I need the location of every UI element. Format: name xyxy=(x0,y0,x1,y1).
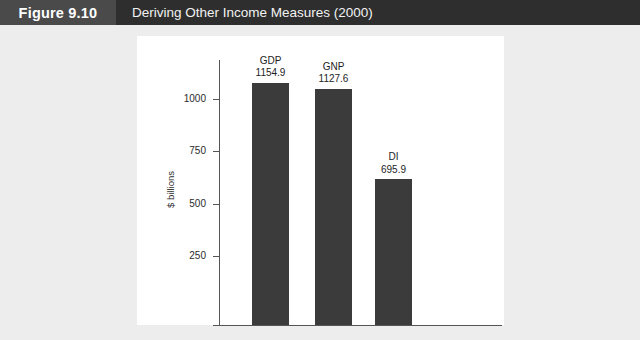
bar-label-di-value: 695.9 xyxy=(354,164,434,177)
y-tick-label-500: 500 xyxy=(146,199,206,209)
y-tick-label-250: 250 xyxy=(146,251,206,261)
y-tick-mark-500 xyxy=(213,204,220,205)
bar-di xyxy=(375,179,412,325)
chart-panel: $ billions 1000 750 500 250 GDP xyxy=(137,36,504,325)
bar-label-di-name: DI xyxy=(354,151,434,164)
x-axis-line xyxy=(213,325,502,326)
figure-body: $ billions 1000 750 500 250 GDP xyxy=(0,25,640,340)
figure-number-label: Figure 9.10 xyxy=(19,5,98,21)
bar-gnp xyxy=(315,89,352,325)
figure-title-bar: Figure 9.10 Deriving Other Income Measur… xyxy=(0,0,640,25)
bar-label-gnp-value: 1127.6 xyxy=(294,73,374,86)
figure-container: Figure 9.10 Deriving Other Income Measur… xyxy=(0,0,640,340)
y-tick-mark-750 xyxy=(213,151,220,152)
y-tick-mark-250 xyxy=(213,256,220,257)
y-tick-label-750: 750 xyxy=(146,146,206,156)
bar-label-gnp-name: GNP xyxy=(294,61,374,74)
figure-number-block: Figure 9.10 xyxy=(0,0,116,25)
y-tick-mark-1000 xyxy=(213,99,220,100)
plot-area: 1000 750 500 250 GDP 1154.9 GNP 1127.6 xyxy=(137,36,504,325)
y-tick-label-1000: 1000 xyxy=(146,94,206,104)
bar-label-gnp: GNP 1127.6 xyxy=(294,61,374,86)
bar-gdp xyxy=(252,83,289,325)
bar-label-di: DI 695.9 xyxy=(354,151,434,176)
figure-title-label: Deriving Other Income Measures (2000) xyxy=(116,0,373,25)
